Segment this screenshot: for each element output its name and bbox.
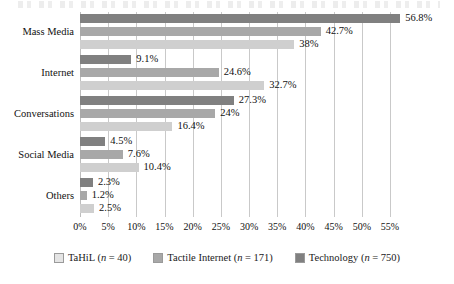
bar[interactable] bbox=[80, 68, 219, 77]
category-label-internet: Internet bbox=[0, 67, 74, 79]
bar-value-label: 56.8% bbox=[405, 11, 432, 25]
bar-value-label: 7.6% bbox=[128, 147, 150, 161]
value-axis: 0%5%10%15%20%25%30%35%40%45%50%55% bbox=[80, 220, 390, 236]
x-tick-label: 15% bbox=[155, 220, 173, 234]
x-tick-label: 0% bbox=[73, 220, 86, 234]
bar[interactable] bbox=[80, 109, 215, 118]
x-tick-label: 50% bbox=[353, 220, 371, 234]
x-tick-label: 40% bbox=[296, 220, 314, 234]
x-tick-label: 35% bbox=[268, 220, 286, 234]
category-axis: Mass MediaInternetConversationsSocial Me… bbox=[0, 12, 74, 217]
bar[interactable] bbox=[80, 40, 294, 49]
bar[interactable] bbox=[80, 191, 87, 200]
grouped-bar-chart: Mass MediaInternetConversationsSocial Me… bbox=[0, 0, 454, 284]
legend-swatch-icon bbox=[295, 253, 305, 263]
category-label-social-media: Social Media bbox=[0, 149, 74, 161]
bar[interactable] bbox=[80, 204, 94, 213]
bar-group: 4.5%7.6%10.4% bbox=[80, 135, 390, 176]
bar[interactable] bbox=[80, 55, 131, 64]
scan-artifact bbox=[18, 1, 440, 8]
bar-groups: 56.8%42.7%38%9.1%24.6%32.7%27.3%24%16.4%… bbox=[80, 12, 390, 217]
bar-value-label: 24.6% bbox=[224, 65, 251, 79]
plot-area: 56.8%42.7%38%9.1%24.6%32.7%27.3%24%16.4%… bbox=[80, 12, 390, 217]
legend-label: Technology (n = 750) bbox=[309, 252, 400, 263]
bar-value-label: 24% bbox=[220, 106, 239, 120]
legend-label: TaHiL (n = 40) bbox=[68, 252, 131, 263]
x-tick-label: 10% bbox=[127, 220, 145, 234]
bar-value-label: 10.4% bbox=[144, 160, 171, 174]
legend-item-tahil[interactable]: TaHiL (n = 40) bbox=[54, 252, 131, 263]
bar-group: 27.3%24%16.4% bbox=[80, 94, 390, 135]
legend-swatch-icon bbox=[153, 253, 163, 263]
bar-value-label: 1.2% bbox=[92, 188, 114, 202]
bar-value-label: 4.5% bbox=[110, 134, 132, 148]
bar[interactable] bbox=[80, 14, 400, 23]
bar[interactable] bbox=[80, 137, 105, 146]
legend-item-tactile-internet[interactable]: Tactile Internet (n = 171) bbox=[153, 252, 272, 263]
bar-value-label: 27.3% bbox=[239, 93, 266, 107]
chart-legend: TaHiL (n = 40)Tactile Internet (n = 171)… bbox=[0, 252, 454, 263]
category-label-others: Others bbox=[0, 190, 74, 202]
bar-value-label: 16.4% bbox=[177, 119, 204, 133]
x-tick-label: 5% bbox=[102, 220, 115, 234]
bar-value-label: 42.7% bbox=[326, 24, 353, 38]
gridline-55 bbox=[390, 12, 391, 217]
legend-swatch-icon bbox=[54, 253, 64, 263]
bar-group: 9.1%24.6%32.7% bbox=[80, 53, 390, 94]
bar[interactable] bbox=[80, 163, 139, 172]
bar[interactable] bbox=[80, 27, 321, 36]
bar[interactable] bbox=[80, 96, 234, 105]
x-tick-label: 55% bbox=[381, 220, 399, 234]
x-tick-label: 30% bbox=[240, 220, 258, 234]
bar-value-label: 38% bbox=[299, 37, 318, 51]
bar-value-label: 9.1% bbox=[136, 52, 158, 66]
category-label-conversations: Conversations bbox=[0, 108, 74, 120]
bar-value-label: 2.3% bbox=[98, 175, 120, 189]
bar[interactable] bbox=[80, 81, 264, 90]
x-tick-label: 25% bbox=[212, 220, 230, 234]
legend-label: Tactile Internet (n = 171) bbox=[167, 252, 272, 263]
bar[interactable] bbox=[80, 150, 123, 159]
bar-group: 56.8%42.7%38% bbox=[80, 12, 390, 53]
x-tick-label: 45% bbox=[324, 220, 342, 234]
legend-item-technology[interactable]: Technology (n = 750) bbox=[295, 252, 400, 263]
bar[interactable] bbox=[80, 122, 172, 131]
x-tick-label: 20% bbox=[184, 220, 202, 234]
bar-value-label: 32.7% bbox=[269, 78, 296, 92]
category-label-mass-media: Mass Media bbox=[0, 26, 74, 38]
bar[interactable] bbox=[80, 178, 93, 187]
bar-group: 2.3%1.2%2.5% bbox=[80, 176, 390, 217]
bar-value-label: 2.5% bbox=[99, 201, 121, 215]
